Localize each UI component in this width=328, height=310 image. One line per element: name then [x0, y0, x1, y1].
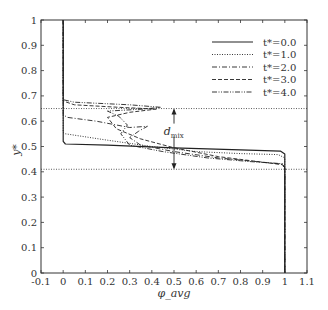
arrow-down-icon — [172, 163, 177, 169]
y-tick-label: 0.4 — [21, 166, 37, 177]
y-axis-label: y* — [10, 144, 23, 157]
legend-label: t*=1.0 — [263, 49, 296, 60]
x-tick-label: 0.4 — [144, 276, 160, 287]
x-tick-label: 0.2 — [100, 276, 116, 287]
x-tick-label: 1 — [282, 276, 288, 287]
y-tick-label: 0.1 — [21, 242, 37, 253]
chart: -0.100.10.20.30.40.50.60.70.80.911.1 00.… — [0, 0, 328, 310]
y-tick-label: 0.9 — [21, 40, 37, 51]
legend-label: t*=0.0 — [263, 37, 296, 48]
x-tick-label: 1.1 — [299, 276, 315, 287]
x-tick-label: 0.9 — [255, 276, 271, 287]
y-tick-label: 0 — [31, 268, 37, 279]
legend-label: t*=3.0 — [263, 74, 296, 85]
dmix-annotation: dmix — [162, 109, 186, 170]
y-tick-label: 0.8 — [21, 65, 37, 76]
x-tick-label: 0.7 — [210, 276, 226, 287]
x-tick-label: 0.6 — [188, 276, 204, 287]
legend: t*=0.0t*=1.0t*=2.0t*=3.0t*=4.0 — [212, 37, 296, 98]
x-tick-label: 0 — [60, 276, 66, 287]
x-tick-label: 0.3 — [122, 276, 138, 287]
legend-label: t*=4.0 — [263, 87, 296, 98]
y-tick-label: 0.3 — [21, 192, 37, 203]
x-tick-label: 0.5 — [166, 276, 182, 287]
y-tick-label: 0.2 — [21, 217, 37, 228]
x-tick-label: 0.1 — [77, 276, 93, 287]
x-tick-label: 0.8 — [233, 276, 249, 287]
y-tick-label: 0.7 — [21, 90, 37, 101]
arrow-up-icon — [172, 109, 177, 115]
y-tick-label: 0.6 — [21, 116, 37, 127]
y-tick-label: 0.5 — [21, 141, 37, 152]
legend-label: t*=2.0 — [263, 62, 296, 73]
y-tick-label: 1 — [31, 15, 37, 26]
x-axis-label: φ_avg — [157, 287, 190, 300]
